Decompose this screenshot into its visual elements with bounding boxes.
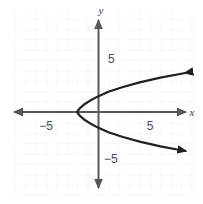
y-axis-label: y	[98, 4, 104, 16]
graph-figure: x y −5 5 5 −5	[0, 0, 203, 204]
x-tick-label-negative-five: −5	[39, 119, 53, 133]
grid-lines	[12, 12, 196, 196]
coordinate-plane: x y −5 5 5 −5	[0, 0, 203, 204]
x-axis-label: x	[189, 106, 195, 118]
y-tick-label-five: 5	[108, 52, 115, 66]
x-tick-label-five: 5	[147, 119, 154, 133]
y-tick-label-negative-five: −5	[104, 152, 118, 166]
